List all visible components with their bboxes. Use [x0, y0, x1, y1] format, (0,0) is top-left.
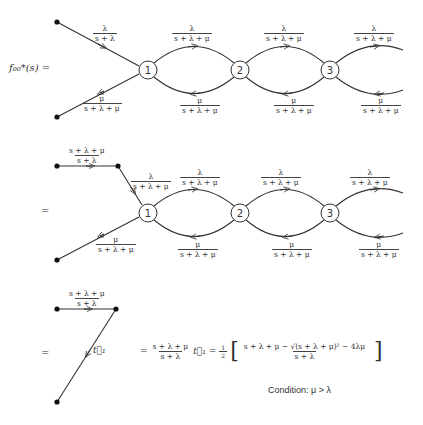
edge-label-forward: λs + λ + μ — [180, 168, 220, 187]
left-bracket: [ — [230, 341, 239, 361]
edge-label-forward: λs + λ + μ — [261, 168, 301, 187]
equals-sign: = — [41, 205, 49, 216]
edge-label-backward: μs + λ + μ — [272, 240, 312, 259]
terminal-dot — [54, 257, 59, 262]
lhs-label: f₀₀*(s) = — [9, 62, 50, 73]
edge-label-backward: μs + λ + μ — [180, 96, 220, 115]
diagram-canvas: 1 2 3 1 2 3 — [0, 0, 423, 425]
terminal-dot — [113, 306, 118, 311]
edge-label-backward: μs + λ + μ — [359, 240, 399, 259]
node-3-label: 3 — [327, 208, 333, 219]
node-2-label: 2 — [237, 65, 243, 76]
bracket-fraction: s + λ + μ − √(s + λ + μ)² − 4λμs + λ — [242, 342, 367, 361]
terminal-dot — [54, 114, 59, 119]
node-1-label: 1 — [145, 65, 151, 76]
equals-sign: = — [41, 347, 49, 358]
terminal-dot — [54, 163, 59, 168]
node-2-label: 2 — [237, 208, 243, 219]
condition-text: Condition: μ > λ — [268, 385, 331, 395]
edge-label-top: s + λ + μs + λ — [67, 289, 107, 308]
edge-label-out: μs + λ + μ — [96, 235, 136, 254]
half-fraction: 12 — [219, 344, 227, 359]
edge-label-backward: μs + λ + μ — [361, 96, 401, 115]
diagram-3-edges — [57, 309, 116, 402]
edge-label-top: s + λ + μs + λ — [67, 146, 107, 165]
t1-vector: t⃗₁ — [193, 346, 206, 356]
edge-label-backward: μs + λ + μ — [274, 96, 314, 115]
coefficient-fraction: s + λ + μs + λ — [151, 342, 191, 361]
edge-label-forward: λs + λ + μ — [350, 168, 390, 187]
equals-sign: = — [140, 346, 148, 356]
terminal-dot — [54, 399, 59, 404]
right-bracket: ] — [374, 341, 383, 361]
result-equation: = s + λ + μs + λ t⃗₁ = 12 [ s + λ + μ − … — [140, 341, 383, 361]
edge-label-in: λs + λ — [93, 24, 117, 43]
terminal-dot — [115, 163, 120, 168]
edge-label-forward: λs + λ + μ — [172, 24, 212, 43]
equals-sign: = — [209, 346, 217, 356]
node-3-label: 3 — [327, 65, 333, 76]
terminal-dot — [54, 306, 59, 311]
edge-label-t1: t⃗₁ — [93, 345, 106, 355]
terminal-dot — [54, 19, 59, 24]
edge-label-forward: λs + λ + μ — [354, 24, 394, 43]
edge-label-backward: μs + λ + μ — [178, 240, 218, 259]
edge-label-out: μs + λ + μ — [82, 94, 122, 113]
node-1-label: 1 — [145, 208, 151, 219]
edge-label-in: λs + λ + μ — [131, 172, 171, 191]
edge-label-forward: λs + λ + μ — [264, 24, 304, 43]
